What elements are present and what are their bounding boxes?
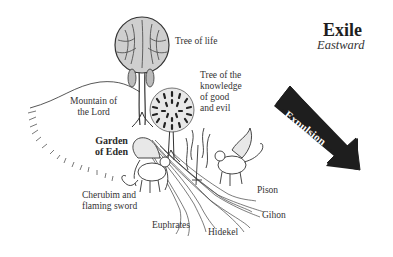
cherub-right-illustration [215, 128, 263, 186]
eden-diagram: Exile Eastward Expulsion Tree of life Tr… [0, 0, 393, 257]
label-line: the Lord [70, 107, 117, 118]
label-line: and evil [200, 103, 242, 114]
label-euphrates: Euphrates [152, 220, 190, 231]
label-tree-of-knowledge: Tree of the knowledge of good and evil [200, 70, 242, 114]
label-line: of Eden [95, 146, 128, 157]
expulsion-arrow-icon [274, 86, 360, 170]
flaming-sword-illustration [186, 128, 210, 185]
map-subtitle: Eastward [317, 38, 364, 53]
label-pison: Pison [257, 185, 278, 196]
label-line: Tree of the [200, 70, 242, 81]
label-gihon: Gihon [262, 210, 286, 221]
label-garden-of-eden: Garden of Eden [95, 135, 128, 157]
label-line: flaming sword [82, 201, 137, 212]
label-line: Mountain of [70, 96, 117, 107]
cherub-left-illustration [122, 138, 170, 193]
label-tree-of-life: Tree of life [175, 36, 217, 47]
label-mountain: Mountain of the Lord [70, 96, 117, 118]
label-hidekel: Hidekel [208, 227, 238, 238]
label-line: Cherubim and [82, 190, 137, 201]
label-line: knowledge [200, 81, 242, 92]
label-line: Garden [95, 135, 128, 146]
label-cherubim: Cherubim and flaming sword [82, 190, 137, 212]
label-line: of good [200, 92, 242, 103]
